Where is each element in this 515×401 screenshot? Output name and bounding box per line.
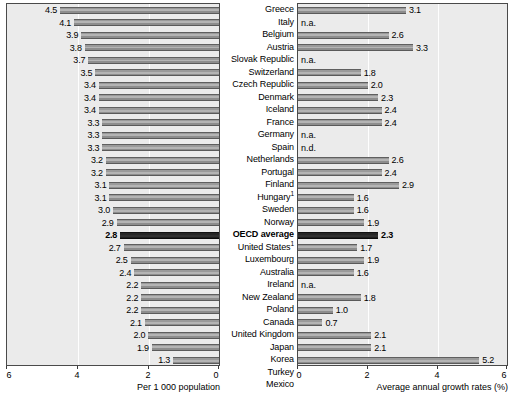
growth-value-label: 3.3: [416, 42, 428, 55]
density-x-axis: 6 4 2 0 Per 1 000 population: [6, 366, 220, 386]
growth-value-label: 2.1: [374, 342, 386, 355]
density-row: 3.8: [7, 42, 219, 55]
density-bar: [141, 282, 219, 289]
growth-value-label: 1.8: [364, 67, 376, 80]
density-value-label: 3.1: [95, 179, 107, 192]
growth-value-label: 1.8: [364, 292, 376, 305]
density-tick-6: [6, 366, 7, 369]
growth-row: 1.0: [298, 304, 507, 317]
density-bar: [99, 107, 219, 114]
growth-bar: [298, 257, 364, 264]
density-value-label: 3.3: [87, 142, 99, 155]
growth-value-label: 1.9: [367, 217, 379, 230]
density-bar: [109, 194, 219, 201]
growth-row: 1.6: [298, 267, 507, 280]
density-row: 3.0: [7, 204, 219, 217]
density-value-label: 1.3: [158, 354, 170, 366]
density-value-label: 2.0: [133, 329, 145, 342]
growth-bar: [298, 182, 399, 189]
density-value-label: 2.9: [102, 217, 114, 230]
density-value-label: 3.2: [91, 154, 103, 167]
density-value-label: 3.8: [70, 42, 82, 55]
density-row: 2.5: [7, 254, 219, 267]
country-label: Finland: [221, 178, 296, 191]
growth-na-label: n.a.: [301, 17, 316, 30]
country-label: Hungary1: [221, 191, 296, 204]
growth-row: 1.8: [298, 292, 507, 305]
growth-row: 1.7: [298, 242, 507, 255]
country-label: Austria: [221, 41, 296, 54]
density-row: 2.0: [7, 329, 219, 342]
density-value-label: 3.3: [87, 117, 99, 130]
density-bar: [117, 219, 219, 226]
density-row: 3.4: [7, 104, 219, 117]
country-label: Turkey: [221, 366, 296, 379]
density-bar: [145, 319, 219, 326]
density-bar: [102, 132, 219, 139]
growth-ticklabel-4: 4: [434, 370, 439, 381]
country-label: Czech Republic: [221, 78, 296, 91]
growth-bar: [298, 232, 378, 239]
growth-bar: [298, 69, 361, 76]
density-value-label: 3.2: [91, 167, 103, 180]
growth-tick-6: [506, 366, 507, 369]
growth-row: 2.4: [298, 167, 507, 180]
density-row: 2.2: [7, 292, 219, 305]
density-value-label: 3.0: [98, 204, 110, 217]
growth-row: 3.1: [298, 4, 507, 17]
density-bar: [99, 94, 219, 101]
density-value-label: 3.5: [80, 67, 92, 80]
density-row: 3.7: [7, 54, 219, 67]
density-value-label: 4.5: [45, 4, 57, 17]
growth-value-label: 1.6: [357, 204, 369, 217]
density-ticklabel-6: 6: [6, 370, 11, 381]
growth-na-label: n.a.: [301, 129, 316, 142]
growth-tick-2: [367, 366, 368, 369]
density-row: 3.9: [7, 29, 219, 42]
density-value-label: 3.3: [87, 129, 99, 142]
density-value-label: 3.9: [66, 29, 78, 42]
growth-bar: [298, 269, 354, 276]
density-value-label: 2.5: [116, 254, 128, 267]
growth-bar: [298, 169, 382, 176]
growth-na-label: n.a.: [301, 279, 316, 292]
growth-value-label: 1.7: [360, 242, 372, 255]
country-label: Germany: [221, 128, 296, 141]
density-bar: [106, 169, 219, 176]
growth-row: 2.1: [298, 342, 507, 355]
density-tick-4: [77, 366, 78, 369]
growth-axis-title: Average annual growth rates (%): [377, 382, 508, 393]
density-value-label: 3.4: [84, 104, 96, 117]
growth-ticklabel-0: 0: [296, 370, 301, 381]
country-label: Canada: [221, 316, 296, 329]
density-bar: [85, 44, 219, 51]
growth-value-label: 5.2: [482, 354, 494, 366]
growth-bar: [298, 107, 382, 114]
density-tick-0: [218, 366, 219, 369]
density-axis-title: Per 1 000 population: [137, 382, 220, 393]
growth-value-label: 2.3: [381, 229, 393, 242]
country-label: United Kingdom: [221, 328, 296, 341]
growth-value-label: 1.6: [357, 267, 369, 280]
density-ticklabel-0: 0: [213, 370, 218, 381]
density-value-label: 3.1: [95, 192, 107, 205]
growth-row: 2.4: [298, 117, 507, 130]
density-value-label: 2.2: [126, 304, 138, 317]
chart-root: 4.54.13.93.83.73.53.43.43.43.33.33.33.23…: [0, 0, 515, 401]
growth-bar-rows: 3.1n.a.2.63.3n.a.1.82.02.32.42.4n.a.n.d.…: [298, 4, 507, 366]
growth-ticklabel-6: 6: [501, 370, 506, 381]
growth-row: 2.6: [298, 29, 507, 42]
density-row: 4.5: [7, 4, 219, 17]
density-bar: [95, 69, 219, 76]
density-value-label: 2.7: [109, 242, 121, 255]
growth-bar: [298, 357, 479, 364]
growth-na-label: n.a.: [301, 54, 316, 67]
growth-bar: [298, 207, 354, 214]
country-label: Belgium: [221, 28, 296, 41]
growth-bar: [298, 319, 322, 326]
growth-ticklabel-2: 2: [364, 370, 369, 381]
density-row: 2.9: [7, 217, 219, 230]
growth-row: 2.9: [298, 179, 507, 192]
density-row: 2.2: [7, 304, 219, 317]
density-bar: [99, 82, 219, 89]
